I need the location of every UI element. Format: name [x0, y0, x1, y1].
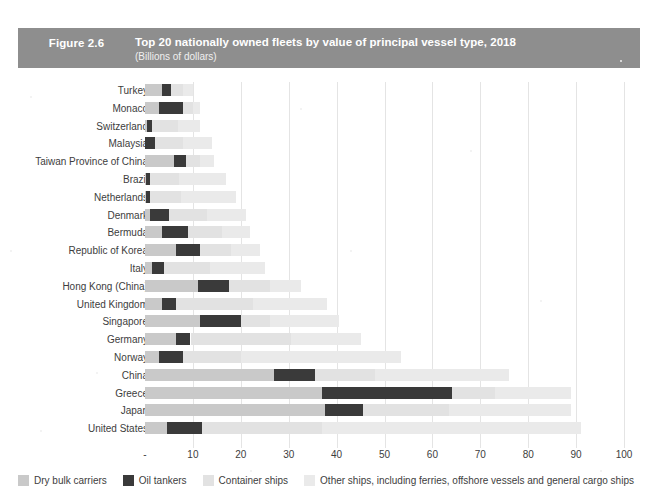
bar-segment-other [291, 333, 360, 345]
bar-segment-other [183, 84, 193, 96]
legend-label: Oil tankers [139, 475, 187, 486]
bar-segment-oil [145, 137, 155, 149]
bar-segment-other [449, 404, 571, 416]
bar-segment-dry [145, 387, 322, 399]
bar-segment-oil [325, 404, 363, 416]
bar-segment-other [193, 102, 200, 114]
bar-segment-other [270, 315, 339, 327]
bar-segment-oil [274, 369, 315, 381]
legend-label: Dry bulk carriers [34, 475, 107, 486]
chart-row: Taiwan Province of China [0, 153, 657, 171]
chart-row: Netherlands [0, 189, 657, 207]
bar-segment-oil [176, 244, 200, 256]
chart-row: Malaysia [0, 135, 657, 153]
bar-segment-cont [315, 369, 375, 381]
bar-segment-cont [186, 155, 200, 167]
category-label: Taiwan Province of China [0, 155, 148, 168]
bar-segment-dry [145, 244, 176, 256]
paper-speck [300, 108, 302, 110]
chart-row: Switzerland [0, 118, 657, 136]
category-label: Germany [0, 333, 148, 346]
bar-segment-cont [202, 422, 322, 434]
category-label: Italy [0, 262, 148, 275]
paper-speck [250, 470, 252, 472]
category-label: Netherlands [0, 191, 148, 204]
figure-title-banner: Figure 2.6 Top 20 nationally owned fleet… [18, 28, 640, 68]
bar-segment-cont [152, 120, 178, 132]
legend-swatch-icon [203, 475, 214, 486]
legend-item-dry[interactable]: Dry bulk carriers [18, 475, 107, 486]
bar-segment-other [241, 351, 401, 363]
chart-row: Japan [0, 402, 657, 420]
legend-item-other[interactable]: Other ships, including ferries, offshore… [304, 475, 634, 486]
bar-segment-oil [322, 387, 451, 399]
category-label: Republic of Korea [0, 244, 148, 257]
bar-segment-oil [162, 84, 172, 96]
category-label: Turkey [0, 84, 148, 97]
category-label: United Kingdom [0, 298, 148, 311]
bar-segment-cont [183, 102, 193, 114]
bar-segment-dry [145, 369, 274, 381]
bar-segment-dry [145, 155, 174, 167]
bar-segment-oil [159, 351, 183, 363]
bar-segment-other [210, 262, 265, 274]
bar-segment-oil [162, 298, 176, 310]
bar-segment-cont [241, 315, 270, 327]
paper-speck [620, 60, 622, 62]
bar-segment-oil [150, 209, 169, 221]
bar-segment-cont [150, 173, 179, 185]
bar-segment-other [178, 120, 200, 132]
bar-segment-other [222, 226, 251, 238]
chart-row: Italy [0, 260, 657, 278]
bar-segment-oil [162, 226, 188, 238]
paper-speck [600, 470, 602, 472]
category-label: United States [0, 422, 148, 435]
category-label: Switzerland [0, 120, 148, 133]
bar-segment-other [179, 173, 226, 185]
bar-segment-other [207, 209, 245, 221]
bar-segment-cont [176, 298, 253, 310]
bar-segment-oil [152, 262, 164, 274]
chart-row: Singapore [0, 313, 657, 331]
category-label: Greece [0, 387, 148, 400]
paper-speck [350, 250, 352, 252]
bar-segment-oil [159, 102, 183, 114]
paper-speck [540, 300, 542, 302]
bar-segment-other [322, 422, 581, 434]
bar-segment-dry [145, 315, 200, 327]
legend-swatch-icon [123, 475, 134, 486]
chart-row: China [0, 367, 657, 385]
bar-segment-cont [363, 404, 449, 416]
chart-row: Greece [0, 385, 657, 403]
bar-segment-oil [198, 280, 229, 292]
legend-item-oil[interactable]: Oil tankers [123, 475, 187, 486]
legend-label: Other ships, including ferries, offshore… [320, 475, 634, 486]
category-label: Malaysia [0, 137, 148, 150]
bar-segment-other [270, 280, 301, 292]
bar-segment-cont [169, 209, 207, 221]
bar-segment-dry [145, 84, 162, 96]
bar-segment-cont [452, 387, 495, 399]
bar-segment-other [183, 137, 212, 149]
bar-segment-other [181, 191, 236, 203]
bar-segment-cont [164, 262, 210, 274]
legend-label: Container ships [219, 475, 288, 486]
bar-segment-other [375, 369, 509, 381]
page-title: Top 20 nationally owned fleets by value … [135, 36, 516, 49]
bar-segment-oil [176, 333, 190, 345]
bar-segment-oil [174, 155, 186, 167]
legend-item-cont[interactable]: Container ships [203, 475, 288, 486]
figure-subtitle: (Billions of dollars) [135, 50, 516, 63]
chart-row: Monaco [0, 100, 657, 118]
category-label: Japan [0, 404, 148, 417]
category-label: Brazil [0, 173, 148, 186]
bar-segment-oil [167, 422, 203, 434]
paper-speck [10, 250, 12, 252]
bar-segment-cont [191, 333, 292, 345]
chart-row: Turkey [0, 82, 657, 100]
bar-segment-dry [145, 404, 325, 416]
bar-segment-oil [200, 315, 241, 327]
bar-segment-cont [200, 244, 231, 256]
bar-segment-other [495, 387, 572, 399]
bar-segment-cont [229, 280, 270, 292]
